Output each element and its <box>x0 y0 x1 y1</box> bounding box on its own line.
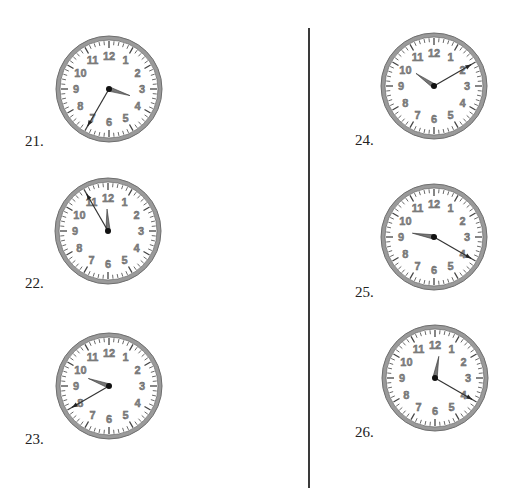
svg-text:11: 11 <box>87 54 99 66</box>
problem-number: 24. <box>355 133 374 148</box>
svg-text:5: 5 <box>447 109 453 121</box>
svg-text:5: 5 <box>447 260 453 272</box>
svg-text:7: 7 <box>89 409 95 421</box>
svg-text:8: 8 <box>77 100 83 112</box>
svg-text:12: 12 <box>102 192 114 204</box>
svg-text:12: 12 <box>429 339 441 351</box>
svg-text:10: 10 <box>73 209 85 221</box>
svg-text:8: 8 <box>402 248 408 260</box>
svg-text:9: 9 <box>398 80 404 92</box>
svg-text:9: 9 <box>398 231 404 243</box>
svg-text:7: 7 <box>88 254 94 266</box>
svg-text:9: 9 <box>72 225 78 237</box>
svg-text:4: 4 <box>135 397 142 409</box>
svg-text:8: 8 <box>403 389 409 401</box>
svg-text:9: 9 <box>399 372 405 384</box>
problem-number: 25. <box>355 285 374 300</box>
svg-text:4: 4 <box>135 100 142 112</box>
svg-text:5: 5 <box>122 409 128 421</box>
svg-text:3: 3 <box>138 225 144 237</box>
svg-text:2: 2 <box>134 209 140 221</box>
svg-text:3: 3 <box>464 80 470 92</box>
svg-text:2: 2 <box>135 364 141 376</box>
svg-text:7: 7 <box>415 401 421 413</box>
column-divider <box>308 28 310 488</box>
svg-text:5: 5 <box>448 401 454 413</box>
svg-text:6: 6 <box>431 264 437 276</box>
svg-text:10: 10 <box>74 364 86 376</box>
problem-number: 22. <box>25 276 44 291</box>
svg-text:3: 3 <box>139 83 145 95</box>
svg-text:12: 12 <box>428 47 440 59</box>
center-pin <box>432 375 438 381</box>
svg-text:1: 1 <box>122 54 128 66</box>
svg-text:10: 10 <box>400 356 412 368</box>
problem-number: 23. <box>25 432 44 447</box>
svg-text:2: 2 <box>461 356 467 368</box>
svg-text:12: 12 <box>428 198 440 210</box>
svg-text:9: 9 <box>73 380 79 392</box>
center-pin <box>105 228 111 234</box>
svg-text:3: 3 <box>465 372 471 384</box>
svg-text:6: 6 <box>431 113 437 125</box>
svg-text:6: 6 <box>105 258 111 270</box>
svg-text:2: 2 <box>460 215 466 227</box>
svg-text:3: 3 <box>464 231 470 243</box>
svg-text:4: 4 <box>460 97 467 109</box>
svg-text:6: 6 <box>432 405 438 417</box>
clock-icon: 121234567891011 <box>54 331 164 441</box>
svg-text:11: 11 <box>413 343 425 355</box>
svg-text:8: 8 <box>76 242 82 254</box>
clock-icon: 121234567891011 <box>54 34 164 144</box>
svg-text:7: 7 <box>414 109 420 121</box>
svg-text:7: 7 <box>414 260 420 272</box>
clock-icon: 121234567891011 <box>379 31 489 141</box>
svg-text:10: 10 <box>399 64 411 76</box>
svg-text:1: 1 <box>121 196 127 208</box>
svg-text:11: 11 <box>87 351 99 363</box>
svg-text:1: 1 <box>448 343 454 355</box>
center-pin <box>431 234 437 240</box>
svg-text:10: 10 <box>399 215 411 227</box>
svg-text:1: 1 <box>447 51 453 63</box>
svg-text:8: 8 <box>402 97 408 109</box>
svg-text:11: 11 <box>412 51 424 63</box>
svg-text:12: 12 <box>103 347 115 359</box>
center-pin <box>106 86 112 92</box>
svg-text:6: 6 <box>106 413 112 425</box>
center-pin <box>106 383 112 389</box>
svg-text:3: 3 <box>139 380 145 392</box>
svg-text:6: 6 <box>106 116 112 128</box>
svg-text:11: 11 <box>412 202 424 214</box>
clock-icon: 121234567891011 <box>379 182 489 292</box>
center-pin <box>431 83 437 89</box>
svg-text:5: 5 <box>121 254 127 266</box>
clock-icon: 121234567891011 <box>380 323 490 433</box>
svg-text:4: 4 <box>134 242 141 254</box>
clock-icon: 121234567891011 <box>53 176 163 286</box>
problem-number: 26. <box>355 425 374 440</box>
problem-number: 21. <box>25 134 44 149</box>
svg-text:9: 9 <box>73 83 79 95</box>
svg-text:1: 1 <box>447 202 453 214</box>
svg-text:12: 12 <box>103 50 115 62</box>
svg-text:10: 10 <box>74 67 86 79</box>
svg-text:1: 1 <box>122 351 128 363</box>
svg-text:5: 5 <box>122 112 128 124</box>
svg-text:2: 2 <box>135 67 141 79</box>
